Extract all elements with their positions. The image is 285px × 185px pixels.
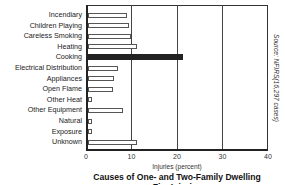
x-tick-label: 30 xyxy=(219,153,227,160)
category-label: Heating xyxy=(57,43,82,51)
bar xyxy=(88,34,131,39)
y-axis xyxy=(86,5,88,151)
x-tick-label: 20 xyxy=(173,153,181,160)
gridline-10 xyxy=(131,5,132,150)
bar xyxy=(88,13,127,18)
category-label: Electrical Distribution xyxy=(15,64,82,72)
chart-title: Causes of One- and Two-Family Dwelling xyxy=(93,172,260,182)
bar xyxy=(88,140,137,145)
category-label: Natural xyxy=(59,117,82,125)
bar xyxy=(88,54,183,60)
x-axis-label: Injuries (percent) xyxy=(152,163,201,170)
bar xyxy=(88,66,118,71)
bar xyxy=(88,119,92,124)
category-label: Open Flame xyxy=(42,85,82,93)
bar xyxy=(88,23,129,28)
source-note: Source: NFIRS(16,297 cases) xyxy=(273,34,280,122)
x-axis xyxy=(86,149,268,151)
gridline-20 xyxy=(177,5,178,150)
gridline-30 xyxy=(222,5,223,150)
chart-title-line2: Fire Injuries xyxy=(153,182,202,185)
x-tick-label: 10 xyxy=(128,153,136,160)
category-label: Other Heat xyxy=(47,96,82,104)
category-label: Unknown xyxy=(52,138,82,146)
x-tick-label: 0 xyxy=(84,153,88,160)
category-label: Children Playing xyxy=(30,22,82,30)
bar xyxy=(88,44,137,49)
bar xyxy=(88,108,123,113)
bar xyxy=(88,87,113,92)
category-label: Cooking xyxy=(56,53,82,61)
x-tick-label: 40 xyxy=(264,153,272,160)
category-label: Exposure xyxy=(52,128,82,136)
category-label: Incendiary xyxy=(49,11,82,19)
bar xyxy=(88,97,92,102)
bar xyxy=(88,76,114,81)
bar xyxy=(88,129,92,134)
category-label: Careless Smoking xyxy=(24,32,82,40)
category-label: Appliances xyxy=(47,75,82,83)
category-label: Other Equipment xyxy=(28,106,82,114)
